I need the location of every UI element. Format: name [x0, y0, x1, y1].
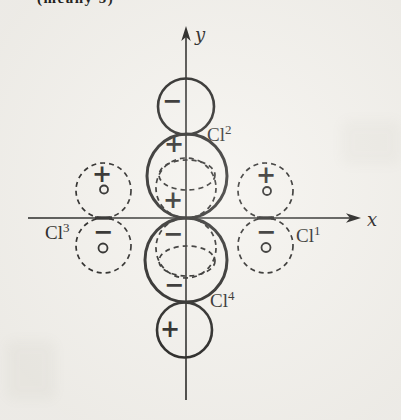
- minus-sign-top-circle: −: [162, 86, 182, 115]
- label-cl2-sup: 2: [225, 122, 232, 137]
- plus-sign-right-upper: +: [256, 160, 276, 189]
- plus-sign-upper-lobe-bottom: +: [163, 185, 183, 214]
- label-cl1-sup: 1: [314, 223, 321, 238]
- label-cl3: Cl3: [45, 220, 69, 243]
- plus-sign-left-upper: +: [92, 159, 112, 188]
- label-cl4-base: Cl: [210, 290, 228, 311]
- minus-sign-left-lower: −: [93, 217, 113, 246]
- plus-sign-bottom-circle: +: [160, 314, 180, 343]
- scanned-figure-page: (meany 5) y x − + + − − +: [0, 0, 401, 420]
- clover-pattern-diagram: y x − + + − − + + − + −: [0, 0, 401, 420]
- label-cl1-base: Cl: [296, 225, 314, 246]
- minus-sign-lower-lobe-top: −: [163, 219, 183, 248]
- label-cl4-sup: 4: [228, 288, 235, 303]
- label-cl2: Cl2: [207, 122, 231, 145]
- label-cl2-base: Cl: [207, 124, 225, 145]
- label-cl4: Cl4: [210, 288, 235, 311]
- label-cl1: Cl1: [296, 223, 320, 246]
- label-cl3-sup: 3: [63, 220, 70, 235]
- plus-sign-upper-lobe-top: +: [164, 129, 184, 158]
- minus-sign-lower-lobe-bottom: −: [164, 270, 184, 299]
- y-axis-label: y: [194, 24, 206, 45]
- label-cl3-base: Cl: [45, 222, 63, 243]
- x-axis-label: x: [367, 209, 377, 230]
- minus-sign-right-lower: −: [256, 217, 276, 246]
